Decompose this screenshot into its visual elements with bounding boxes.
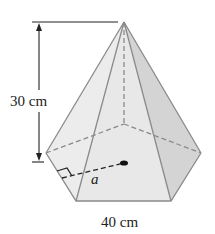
apothem-label: a [91,172,99,187]
base-center-dot [120,160,128,165]
height-label: 30 cm [10,94,47,109]
pyramid-diagram: 30 cm a 40 cm [0,0,215,234]
arrow-up-icon [36,23,42,31]
base-side-label: 40 cm [101,215,138,230]
pyramid-drawing [0,0,215,234]
arrow-down-icon [36,153,42,161]
